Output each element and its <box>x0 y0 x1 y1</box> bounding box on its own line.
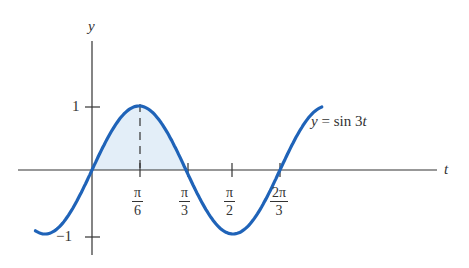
curve-eq-y: y <box>311 113 318 129</box>
x-tick-label-pi2: π 2 <box>224 186 235 218</box>
curve-equation-label: y = sin 3t <box>311 114 367 129</box>
x-tick-label-pi3: π 3 <box>179 186 190 218</box>
t-axis-label: t <box>444 162 448 177</box>
y-tick-label-1: 1 <box>72 99 80 114</box>
x-tick-label-2pi3: 2π 3 <box>270 186 288 218</box>
y-tick-label-neg1: −1 <box>56 229 72 244</box>
x-tick-label-pi6: π 6 <box>132 186 143 218</box>
curve-eq-rest: = sin 3 <box>318 113 363 129</box>
curve-eq-t: t <box>362 113 366 129</box>
y-axis-label: y <box>88 19 95 34</box>
